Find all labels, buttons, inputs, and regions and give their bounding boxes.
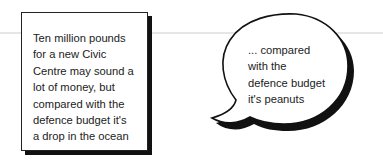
text-box: Ten million pounds for a new Civic Centr… — [21, 12, 148, 151]
text-box-line: a drop in the ocean — [33, 128, 145, 144]
text-box-line: lot of money, but — [33, 79, 145, 95]
text-box-line: for a new Civic — [33, 46, 145, 62]
speech-bubble-content: ... compared with the defence budget it'… — [248, 42, 338, 108]
text-box-content: Ten million pounds for a new Civic Centr… — [33, 30, 145, 145]
text-box-line: Ten million pounds — [33, 30, 145, 46]
text-box-line: Centre may sound a — [33, 63, 145, 79]
text-box-line: defence budget it's — [33, 112, 145, 128]
speech-bubble-line: it's peanuts — [248, 91, 338, 107]
speech-bubble-line: defence budget — [248, 75, 338, 91]
speech-bubble-line: with the — [248, 58, 338, 74]
speech-bubble-line: ... compared — [248, 42, 338, 58]
text-box-line: compared with the — [33, 96, 145, 112]
